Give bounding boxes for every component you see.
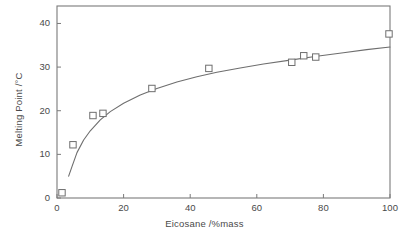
axis-ticks <box>57 23 390 198</box>
melting-point-chart: 020406080100 010203040 Eicosane /%mass M… <box>0 0 409 237</box>
y-tick-label: 40 <box>26 17 50 28</box>
x-tick-label: 80 <box>308 202 338 213</box>
data-point-marker <box>90 112 96 118</box>
data-point-marker <box>301 53 307 59</box>
fitted-curve <box>69 47 390 176</box>
x-tick-label: 40 <box>175 202 205 213</box>
y-axis-title: Melting Point /°C <box>13 40 24 180</box>
x-tick-label: 60 <box>242 202 272 213</box>
y-tick-label: 10 <box>26 148 50 159</box>
data-point-marker <box>289 59 295 65</box>
data-point-marker <box>100 110 106 116</box>
data-point-marker <box>386 31 392 37</box>
data-point-marker <box>59 190 65 196</box>
x-tick-label: 0 <box>42 202 72 213</box>
data-point-marker <box>149 85 155 91</box>
x-tick-label: 20 <box>109 202 139 213</box>
data-point-marker <box>70 142 76 148</box>
y-tick-label: 0 <box>26 192 50 203</box>
axes-frame <box>57 6 390 198</box>
x-axis-title: Eicosane /%mass <box>0 218 409 229</box>
x-tick-label: 100 <box>375 202 405 213</box>
data-point-marker <box>313 54 319 60</box>
data-point-marker <box>206 65 212 71</box>
y-tick-label: 30 <box>26 61 50 72</box>
y-tick-label: 20 <box>26 105 50 116</box>
